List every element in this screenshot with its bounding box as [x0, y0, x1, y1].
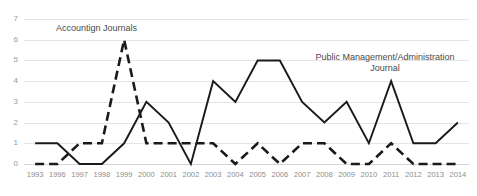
x-tick-label-1999: 1999: [113, 166, 135, 184]
x-tick-label-2004: 2004: [224, 166, 246, 184]
y-tick-label-1: 1: [0, 139, 18, 147]
y-tick-label-2: 2: [0, 119, 18, 127]
plot-area: [24, 19, 469, 164]
x-tick-label-2009: 2009: [336, 166, 358, 184]
x-tick-label-2011: 2011: [380, 166, 402, 184]
y-tick-label-7: 7: [0, 15, 18, 23]
x-tick-label-2002: 2002: [180, 166, 202, 184]
x-tick-label-2006: 2006: [269, 166, 291, 184]
series-layer: [24, 19, 469, 164]
x-tick-label-2013: 2013: [425, 166, 447, 184]
x-tick-label-2010: 2010: [358, 166, 380, 184]
series-line-public-management: [35, 60, 458, 164]
x-tick-label-1997: 1997: [69, 166, 91, 184]
y-tick-label-6: 6: [0, 36, 18, 44]
x-tick-label-2001: 2001: [158, 166, 180, 184]
series-label-public-management-journal: Public Management/Administration Journal: [305, 52, 465, 74]
x-tick-label-1998: 1998: [91, 166, 113, 184]
x-tick-label-2007: 2007: [291, 166, 313, 184]
x-tick-label-2012: 2012: [402, 166, 424, 184]
x-tick-label-1996: 1996: [46, 166, 68, 184]
series-label-accounting-journals: Accountign Journals: [56, 23, 137, 34]
y-tick-label-0: 0: [0, 160, 18, 168]
x-tick-label-1993: 1993: [24, 166, 46, 184]
x-tick-label-2005: 2005: [247, 166, 269, 184]
y-tick-label-3: 3: [0, 98, 18, 106]
x-tick-label-2003: 2003: [202, 166, 224, 184]
x-tick-label-2000: 2000: [135, 166, 157, 184]
x-axis-tick-labels: 1993199619971998199920002001200220032004…: [24, 166, 469, 184]
line-chart: 01234567 1993199619971998199920002001200…: [0, 0, 477, 196]
y-tick-label-4: 4: [0, 77, 18, 85]
y-tick-label-5: 5: [0, 56, 18, 64]
x-tick-label-2008: 2008: [313, 166, 335, 184]
x-tick-label-2014: 2014: [447, 166, 469, 184]
